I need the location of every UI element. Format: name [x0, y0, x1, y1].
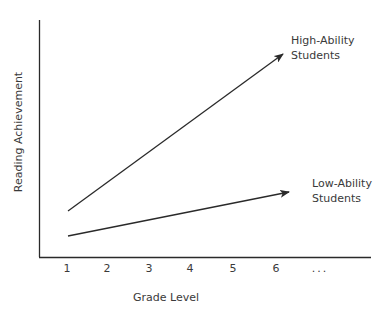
x-tick-5: 5 — [230, 262, 237, 275]
high-ability-label-line1: High-Ability — [291, 33, 355, 48]
x-tick-6: 6 — [273, 262, 280, 275]
high-ability-line — [68, 54, 283, 211]
x-tick-ellipsis: ... — [312, 262, 329, 275]
x-axis-label: Grade Level — [133, 291, 199, 304]
low-ability-label: Low-Ability Students — [312, 176, 372, 206]
high-ability-label: High-Ability Students — [291, 33, 355, 63]
x-tick-3: 3 — [146, 262, 153, 275]
x-tick-1: 1 — [64, 262, 71, 275]
x-tick-4: 4 — [187, 262, 194, 275]
low-ability-label-line2: Students — [312, 191, 372, 206]
low-ability-label-line1: Low-Ability — [312, 176, 372, 191]
x-tick-2: 2 — [104, 262, 111, 275]
low-ability-line — [68, 192, 289, 236]
high-ability-label-line2: Students — [291, 48, 355, 63]
y-axis-label: Reading Achievement — [12, 72, 25, 192]
